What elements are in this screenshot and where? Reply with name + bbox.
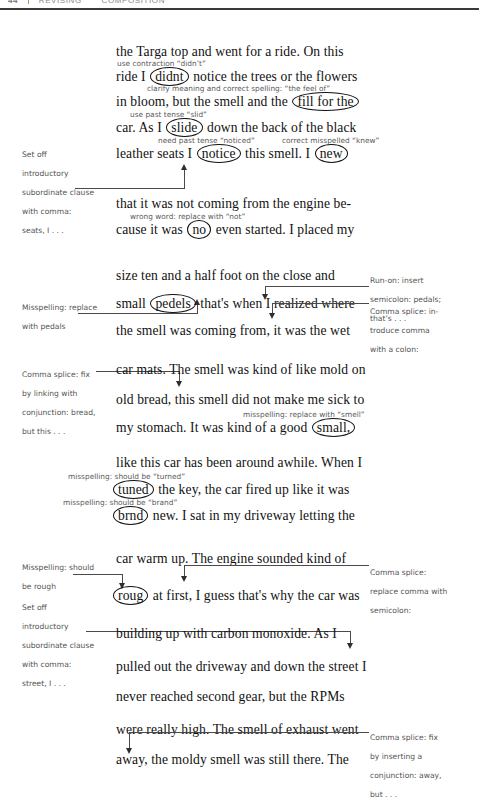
body-line: brnd new. I sat in my driveway letting t… <box>112 508 355 524</box>
arrowhead-icon <box>269 313 275 319</box>
margin-annotation-rough: Misspelling: should be rough <box>22 553 118 591</box>
circled-word-new: new <box>315 146 348 162</box>
circled-word-fill-for-the: fill for the <box>292 94 358 110</box>
header-rule <box>0 8 479 10</box>
arrowhead-icon <box>347 643 353 649</box>
connector-line <box>78 313 198 314</box>
body-line: were really high. The smell of exhaust w… <box>116 722 359 738</box>
body-line: car mats. The smell was kind of like mol… <box>116 362 366 378</box>
body-line: size ten and a half foot on the close an… <box>116 268 335 284</box>
inline-annotation-tuned: misspelling: should be “turned” <box>68 472 185 482</box>
body-line: building up with carbon monoxide. As I <box>116 626 337 642</box>
running-head-right-label: COMPOSITION <box>102 0 166 5</box>
inline-annotation-brnd: misspelling: should be “brand” <box>63 498 177 508</box>
running-head-left-label: REVISING <box>39 0 82 5</box>
body-line: pulled out the driveway and down the str… <box>116 659 367 675</box>
arrowhead-icon <box>181 576 187 582</box>
body-line: like this car has been around awhile. Wh… <box>116 455 362 471</box>
body-line: small pedels that's when I realized wher… <box>116 296 355 312</box>
connector-line <box>272 303 369 304</box>
body-line: my stomach. It was kind of a good small, <box>116 420 356 436</box>
connector-line <box>129 732 369 733</box>
body-line: never reached second gear, but the RPMs <box>116 689 345 705</box>
body-line: that it was not coming from the engine b… <box>116 196 351 212</box>
margin-annotation-conjunction: Comma splice: fix by inserting a conjunc… <box>370 723 474 800</box>
body-line: old bread, this smell did not make me si… <box>116 392 364 408</box>
running-head-divider <box>28 0 29 4</box>
connector-line <box>184 170 185 189</box>
body-line: away, the moldy smell was still there. T… <box>116 752 349 768</box>
body-line: car. As I slide down the back of the bla… <box>116 120 356 136</box>
body-line: in bloom, but the smell and the fill for… <box>116 94 360 110</box>
body-line: roug at first, I guess that's why the ca… <box>112 588 360 604</box>
arrowhead-icon <box>176 381 182 387</box>
connector-line <box>75 188 185 189</box>
manuscript-page: 44 REVISING COMPOSITION the Targa top an… <box>0 0 479 800</box>
body-line: leather seats I notice this smell. I new <box>116 146 349 162</box>
margin-annotation-street: Set off introductory subordinate clause … <box>22 593 118 689</box>
circled-word-slide: slide <box>166 120 202 136</box>
inline-annotation-no: wrong word: replace with “not” <box>130 212 245 222</box>
circled-word-roug: roug <box>113 588 148 604</box>
body-line: cause it was no even started. I placed m… <box>116 222 354 238</box>
body-line: the smell was coming from, it was the we… <box>116 323 350 339</box>
page-number: 44 <box>8 0 18 5</box>
connector-line <box>73 574 123 575</box>
inline-annotation-small: misspelling: replace with “smell” <box>243 410 365 420</box>
circled-word-pedels: pedels <box>150 296 195 312</box>
body-line: tuned the key, the car fired up like it … <box>112 482 349 498</box>
circled-word-notice: notice <box>197 146 241 162</box>
circled-word-didnt: didnt <box>150 69 188 85</box>
circled-word-brnd: brnd <box>113 508 148 524</box>
connector-line <box>184 565 369 566</box>
inline-annotation-new: correct misspelled “knew” <box>282 136 379 146</box>
inline-annotation-fill-for-the: clarify meaning and correct spelling: “t… <box>147 84 330 94</box>
circled-word-small: small, <box>312 420 355 436</box>
inline-annotation-notice: need past tense “noticed” <box>158 136 255 146</box>
margin-annotation-semicolon: Comma splice: replace comma with semicol… <box>370 558 474 616</box>
connector-line <box>265 286 369 287</box>
body-line: ride I didnt notice the trees or the flo… <box>116 69 357 85</box>
inline-annotation-didnt: use contraction “didn’t” <box>117 59 206 69</box>
arrowhead-icon <box>181 164 187 170</box>
inline-annotation-slide: use past tense “slid” <box>130 110 207 120</box>
circled-word-tuned: tuned <box>113 482 154 498</box>
margin-annotation-comma-splice-colon: Comma splice: in- troduce comma with a c… <box>370 297 474 355</box>
body-line: the Targa top and went for a ride. On th… <box>116 44 344 60</box>
circled-word-no: no <box>187 222 211 238</box>
